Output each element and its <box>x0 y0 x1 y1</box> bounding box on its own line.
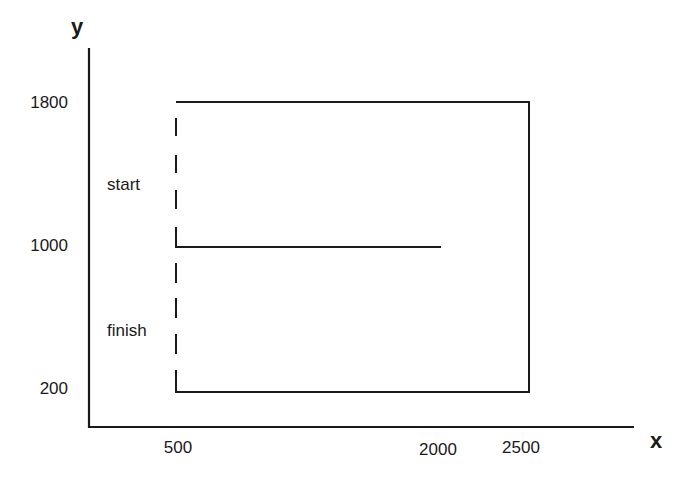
x-tick-500: 500 <box>143 439 213 456</box>
y-tick-1000: 1000 <box>8 237 68 254</box>
finish-annotation: finish <box>107 322 147 339</box>
start-annotation: start <box>107 176 140 193</box>
x-axis-label: x <box>650 430 662 452</box>
y-tick-1800: 1800 <box>8 94 68 111</box>
y-axis-label: y <box>71 16 83 38</box>
x-tick-2000: 2000 <box>403 441 473 458</box>
y-tick-200: 200 <box>8 380 68 397</box>
diagram-canvas <box>0 0 683 482</box>
x-tick-2500: 2500 <box>486 439 556 456</box>
